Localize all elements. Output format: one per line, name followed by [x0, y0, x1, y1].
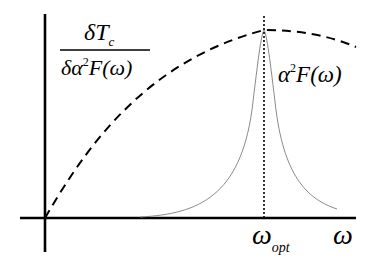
dtc-label: δTc δα2F(ω) — [60, 19, 150, 80]
svg-text:δTc: δTc — [84, 19, 115, 49]
x-axis-label: ω — [333, 219, 353, 250]
diagram-canvas: δTc δα2F(ω) α2F(ω) ωopt ω — [0, 0, 378, 270]
svg-text:δα2F(ω): δα2F(ω) — [61, 55, 132, 80]
alpha2f-peak-curve — [140, 30, 337, 217]
omega-opt-label: ωopt — [252, 219, 291, 255]
alpha2f-label: α2F(ω) — [278, 61, 342, 87]
